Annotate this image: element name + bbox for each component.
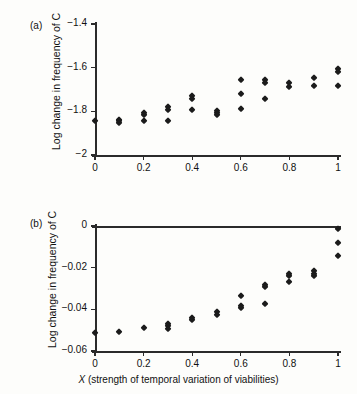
data-point bbox=[334, 82, 342, 90]
y-axis-tick bbox=[91, 225, 95, 226]
x-axis-tick-label: 0.6 bbox=[221, 358, 261, 369]
panel-b-y-axis-title: Log change in frequency of C bbox=[46, 211, 58, 348]
x-axis-tick-label: 0.2 bbox=[124, 162, 164, 173]
data-point bbox=[237, 293, 245, 301]
zero-reference-line bbox=[92, 226, 341, 228]
data-point bbox=[261, 300, 269, 308]
y-axis-tick-label: −1.8 bbox=[27, 104, 87, 115]
x-axis-tick bbox=[143, 156, 144, 160]
data-point bbox=[286, 83, 294, 91]
figure-scatter-panels: (a) Log change in frequency of C −1.4−1.… bbox=[0, 0, 357, 394]
x-axis-line bbox=[92, 155, 341, 157]
data-point bbox=[334, 69, 342, 77]
x-axis-tick bbox=[240, 156, 241, 160]
y-axis-tick bbox=[91, 111, 95, 112]
panel-a: (a) Log change in frequency of C −1.4−1.… bbox=[0, 0, 357, 196]
data-point bbox=[286, 278, 294, 286]
x-axis-tick-label: 1 bbox=[318, 162, 357, 173]
data-point bbox=[115, 328, 123, 336]
x-axis-tick bbox=[289, 352, 290, 356]
y-axis-tick-label: 0 bbox=[27, 219, 87, 230]
x-axis-tick bbox=[94, 156, 95, 160]
x-axis-tick bbox=[192, 156, 193, 160]
data-point bbox=[310, 74, 318, 82]
data-point bbox=[237, 105, 245, 113]
x-axis-tick-label: 0 bbox=[75, 162, 115, 173]
data-point bbox=[310, 82, 318, 90]
x-axis-caption-text: (strength of temporal variation of viabi… bbox=[85, 374, 278, 385]
data-point bbox=[140, 324, 148, 332]
data-point bbox=[91, 329, 99, 337]
x-axis-tick-label: 0.4 bbox=[172, 162, 212, 173]
y-axis-tick-label: −1.4 bbox=[27, 17, 87, 28]
data-point bbox=[334, 239, 342, 247]
data-point bbox=[188, 106, 196, 114]
y-axis-tick-label: −0.02 bbox=[27, 261, 87, 272]
x-axis-tick bbox=[337, 352, 338, 356]
data-point bbox=[164, 117, 172, 125]
data-point bbox=[310, 273, 318, 281]
y-axis-tick-label: −0.04 bbox=[27, 302, 87, 313]
y-axis-tick-label: −1.6 bbox=[27, 61, 87, 72]
x-axis-tick bbox=[192, 352, 193, 356]
panel-a-y-axis-title: Log change in frequency of C bbox=[50, 13, 62, 150]
x-axis-tick-label: 0.8 bbox=[269, 358, 309, 369]
panel-b: (b) Log change in frequency of C 0−0.02−… bbox=[0, 196, 357, 394]
x-axis-tick bbox=[143, 352, 144, 356]
data-point bbox=[261, 95, 269, 103]
x-axis-caption: X (strength of temporal variation of via… bbox=[0, 374, 357, 385]
y-axis-tick bbox=[91, 309, 95, 310]
x-axis-line bbox=[92, 351, 341, 353]
data-point bbox=[237, 90, 245, 98]
panel-a-plot-area: −1.4−1.6−1.8−200.20.40.60.81 bbox=[95, 24, 338, 155]
y-axis-line bbox=[95, 22, 97, 157]
x-axis-tick-label: 1 bbox=[318, 358, 357, 369]
panel-b-plot-area: 0−0.02−0.04−0.0600.20.40.60.81 bbox=[95, 226, 338, 351]
x-axis-tick bbox=[289, 156, 290, 160]
x-axis-tick bbox=[240, 352, 241, 356]
y-axis-tick-label: −2 bbox=[27, 148, 87, 159]
y-axis-tick bbox=[91, 23, 95, 24]
x-axis-tick-label: 0.8 bbox=[269, 162, 309, 173]
data-point bbox=[237, 76, 245, 84]
y-axis-tick bbox=[91, 67, 95, 68]
data-point bbox=[140, 117, 148, 125]
y-axis-tick-label: −0.06 bbox=[27, 344, 87, 355]
x-axis-tick-label: 0.6 bbox=[221, 162, 261, 173]
x-axis-tick-label: 0.4 bbox=[172, 358, 212, 369]
x-axis-tick bbox=[337, 156, 338, 160]
x-axis-tick bbox=[94, 352, 95, 356]
x-axis-tick-label: 0.2 bbox=[124, 358, 164, 369]
data-point bbox=[334, 252, 342, 260]
data-point bbox=[91, 117, 99, 125]
x-axis-tick-label: 0 bbox=[75, 358, 115, 369]
y-axis-tick bbox=[91, 267, 95, 268]
